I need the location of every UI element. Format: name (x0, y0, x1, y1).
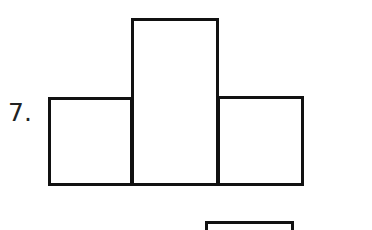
left-rectangle (48, 97, 133, 186)
middle-rectangle (131, 18, 219, 186)
problem-number: 7. (8, 98, 32, 128)
next-figure-partial-rectangle (205, 221, 294, 230)
right-rectangle (217, 96, 304, 186)
